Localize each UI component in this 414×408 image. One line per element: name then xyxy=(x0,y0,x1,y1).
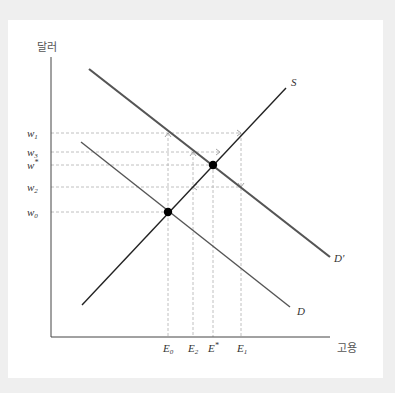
w1-label: w1 xyxy=(27,127,38,141)
x-axis-title: 고용 xyxy=(337,342,357,355)
e2-label: E2 xyxy=(187,342,199,356)
wstar-label: w* xyxy=(27,158,38,171)
supply-curve-s xyxy=(82,88,286,305)
supply-label: S xyxy=(291,76,297,88)
w0-label: w0 xyxy=(27,206,38,220)
w2-label: w2 xyxy=(27,181,38,195)
demand-label: D xyxy=(296,305,305,317)
equilibrium-point-new xyxy=(209,161,217,169)
equilibrium-point-initial xyxy=(164,208,172,216)
y-axis-title: 달러 xyxy=(37,41,57,54)
employment-labels: E0 E2 E* E1 xyxy=(162,341,247,356)
e1-label: E1 xyxy=(236,342,247,356)
wage-labels: w1 w3 w* w2 w0 xyxy=(27,127,38,220)
axes xyxy=(51,57,330,337)
demand-shifted-label: D' xyxy=(333,252,345,264)
e0-label: E0 xyxy=(162,342,174,356)
estar-label: E* xyxy=(207,341,219,354)
labor-market-diagram: S D' D 달러 고용 w1 w3 w* w2 w0 E0 E2 E* E1 xyxy=(0,0,414,408)
demand-curve-d xyxy=(81,142,290,307)
